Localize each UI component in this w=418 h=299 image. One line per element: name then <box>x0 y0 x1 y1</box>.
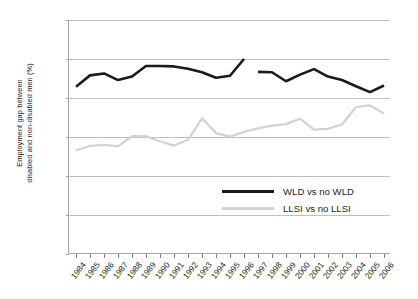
x-tick-mark <box>216 254 217 258</box>
legend-item-llsi: LLSI vs no LLSI <box>222 200 354 217</box>
x-tick-mark <box>258 254 259 258</box>
y-axis-title-line1: Employment gap between <box>15 79 25 167</box>
series-line-wld <box>76 59 244 87</box>
x-tick-mark <box>314 254 315 258</box>
x-tick-mark <box>202 254 203 258</box>
series-line-llsi <box>76 105 384 150</box>
x-tick-mark <box>160 254 161 258</box>
x-tick-mark <box>230 254 231 258</box>
y-axis-title-line2: disabled and non-disabled men (%) <box>25 63 35 183</box>
y-tick-mark <box>66 254 69 255</box>
plot-area: 1984198519861987198819891990199119921993… <box>68 20 390 254</box>
chart-legend: WLD vs no WLD LLSI vs no LLSI <box>222 183 354 217</box>
x-tick-mark <box>342 254 343 258</box>
x-tick-mark <box>132 254 133 258</box>
series-lines <box>69 20 391 254</box>
x-tick-mark <box>370 254 371 258</box>
series-line-wld <box>258 69 384 92</box>
y-axis-title: Employment gap between disabled and non-… <box>10 3 40 243</box>
legend-swatch-llsi-icon <box>222 207 274 210</box>
x-tick-mark <box>244 254 245 258</box>
x-tick-label: 2006 <box>377 260 396 281</box>
x-tick-mark <box>272 254 273 258</box>
x-tick-mark <box>188 254 189 258</box>
x-tick-mark <box>118 254 119 258</box>
legend-swatch-wld-icon <box>222 190 274 193</box>
x-tick-mark <box>76 254 77 258</box>
x-tick-mark <box>356 254 357 258</box>
x-tick-mark <box>384 254 385 258</box>
x-tick-mark <box>300 254 301 258</box>
x-tick-mark <box>286 254 287 258</box>
legend-label-wld: WLD vs no WLD <box>283 186 354 197</box>
x-tick-mark <box>328 254 329 258</box>
x-tick-mark <box>174 254 175 258</box>
line-chart: Employment gap between disabled and non-… <box>0 0 418 299</box>
legend-label-llsi: LLSI vs no LLSI <box>283 203 351 214</box>
legend-item-wld: WLD vs no WLD <box>222 183 354 200</box>
x-tick-mark <box>104 254 105 258</box>
x-tick-mark <box>146 254 147 258</box>
x-tick-mark <box>90 254 91 258</box>
